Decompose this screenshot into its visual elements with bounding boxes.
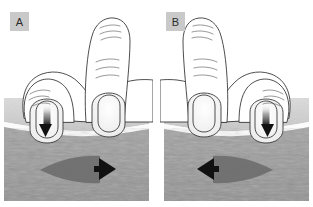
panel-divider (153, 0, 160, 207)
panel-a-content (0, 0, 153, 207)
two-panel-figure: A (0, 0, 313, 207)
panel-b-content (160, 0, 313, 207)
pressure-arrow-shaft (263, 104, 270, 126)
panel-label-b: B (166, 12, 185, 31)
panel-a: A (0, 0, 153, 207)
panel-label-b-text: B (172, 16, 179, 28)
panel-label-a: A (10, 12, 29, 31)
panel-label-a-text: A (16, 16, 23, 28)
pressure-arrow-shaft (44, 104, 51, 126)
panel-b: B (160, 0, 313, 207)
panel-a-illustration (0, 0, 153, 207)
panel-b-illustration (160, 0, 313, 207)
